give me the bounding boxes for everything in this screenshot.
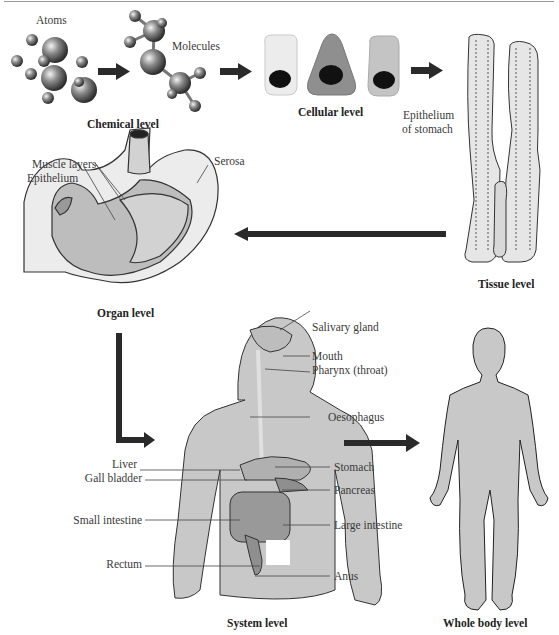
arrow-right-icon	[411, 62, 443, 79]
level-title-organ: Organ level	[97, 307, 154, 319]
label-stomach: Stomach	[334, 461, 374, 474]
label-small-intestine: Small intestine	[40, 514, 142, 527]
level-title-chemical: Chemical level	[87, 118, 159, 130]
label-pancreas: Pancreas	[334, 484, 375, 497]
cells-icon	[265, 34, 399, 96]
stomach-organ-icon	[24, 128, 218, 283]
label-epithelium: Epithelium	[27, 172, 78, 185]
arrow-right-icon	[98, 63, 130, 80]
label-muscle-layers: Muscle layers	[32, 158, 96, 171]
arrow-right-icon	[220, 63, 252, 80]
arrow-down-right-icon	[116, 333, 155, 448]
label-epithelium-stomach-1: Epithelium	[403, 109, 454, 122]
molecules-icon	[124, 10, 206, 112]
level-title-whole-body: Whole body level	[443, 617, 527, 629]
label-gall-bladder: Gall bladder	[60, 472, 142, 485]
label-pharynx: Pharynx (throat)	[312, 364, 388, 377]
label-serosa: Serosa	[214, 155, 245, 168]
label-oesophagus: Oesophagus	[328, 411, 384, 424]
label-rectum: Rectum	[80, 558, 142, 571]
label-salivary-gland: Salivary gland	[312, 321, 379, 334]
whole-body-icon	[430, 328, 548, 610]
label-molecules: Molecules	[172, 40, 220, 53]
label-mouth: Mouth	[312, 350, 343, 363]
level-title-tissue: Tissue level	[478, 278, 534, 290]
stomach-epithelium-tissue-icon	[465, 34, 540, 262]
atoms-icon	[11, 34, 97, 104]
level-title-cellular: Cellular level	[298, 106, 363, 118]
label-anus: Anus	[334, 570, 358, 583]
level-title-system: System level	[227, 617, 287, 629]
diagram-artwork	[0, 0, 559, 635]
label-liver: Liver	[80, 458, 137, 471]
label-epithelium-stomach-2: of stomach	[402, 123, 453, 136]
arrow-left-icon	[234, 227, 446, 241]
label-large-intestine: Large intestine	[334, 519, 402, 532]
label-atoms: Atoms	[36, 14, 67, 27]
